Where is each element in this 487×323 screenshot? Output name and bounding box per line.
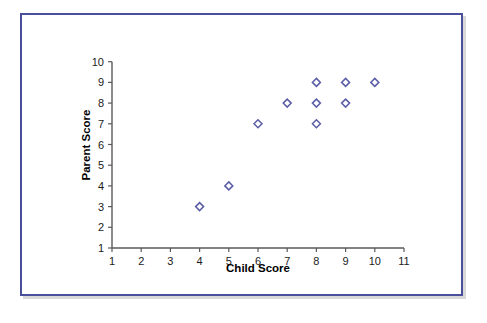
data-points [196,78,379,210]
x-tick-label-2: 2 [138,255,144,267]
y-tick-label-8: 8 [98,97,104,109]
data-point [312,99,320,107]
x-tick-label-11: 11 [398,255,409,267]
y-tick-label-9: 9 [98,76,104,88]
x-tick-label-9: 9 [343,255,349,267]
x-tick-label-8: 8 [313,255,319,267]
x-axis-title: Child Score [226,262,290,274]
x-tick-label-4: 4 [197,255,203,267]
x-tick-label-1: 1 [109,255,115,267]
y-tick-label-3: 3 [98,201,104,213]
y-tick-label-6: 6 [98,139,104,151]
y-axis: 12345678910 [92,56,112,254]
y-tick-label-1: 1 [98,242,104,254]
data-point [254,120,262,128]
y-tick-label-7: 7 [98,118,104,130]
data-point [225,182,233,190]
data-point [312,120,320,128]
y-tick-label-4: 4 [98,180,104,192]
data-point [371,78,379,86]
data-point [196,203,204,211]
data-point [312,78,320,86]
x-tick-label-3: 3 [167,255,173,267]
y-axis-title: Parent Score [80,110,92,181]
data-point [342,78,350,86]
scatter-plot-canvas: 12345678910 1234567891011 Child Score Pa… [0,0,487,323]
x-tick-label-10: 10 [369,255,381,267]
y-tick-label-2: 2 [98,221,104,233]
data-point [283,99,291,107]
data-point [342,99,350,107]
y-tick-label-5: 5 [98,159,104,171]
scatter-plot-figure: 12345678910 1234567891011 Child Score Pa… [0,0,487,323]
y-tick-label-10: 10 [92,56,104,68]
